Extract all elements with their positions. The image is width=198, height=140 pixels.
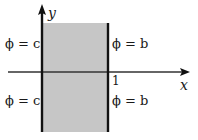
shaded-strip-region	[43, 23, 107, 132]
left-upper-boundary-label: ϕ = c	[5, 37, 40, 50]
strip-diagram	[0, 0, 198, 140]
right-upper-boundary-label: ϕ = b	[112, 37, 148, 50]
left-lower-boundary-label: ϕ = c	[5, 94, 40, 107]
y-axis-label: y	[48, 6, 56, 20]
x-axis-label: x	[180, 78, 188, 92]
right-lower-boundary-label: ϕ = b	[112, 94, 148, 107]
x-tick-one: 1	[112, 75, 120, 87]
